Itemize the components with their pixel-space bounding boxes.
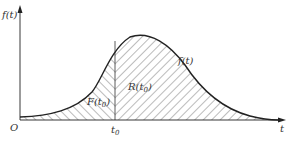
x-axis-label: t: [280, 123, 285, 134]
t0-label: t0: [111, 124, 120, 137]
origin-label: O: [10, 122, 18, 133]
curve-label: f(t): [177, 55, 194, 66]
y-axis-label: f(t): [1, 9, 18, 20]
y-axis-arrow-icon: [18, 5, 23, 13]
reliability-diagram: f(t) O t t0 f(t) F(t0) R(t0): [0, 0, 292, 143]
x-axis-arrow-icon: [278, 118, 286, 123]
reliability-area: [20, 35, 278, 120]
